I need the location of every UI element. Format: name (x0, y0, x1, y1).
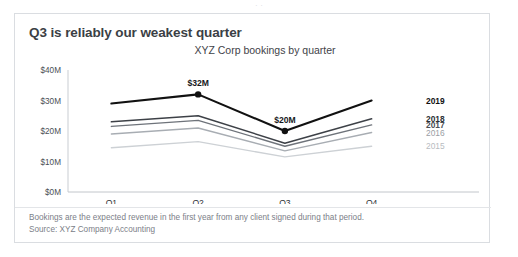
y-axis-tick-labels: $0M$10M$20M$30M$40M (41, 66, 62, 197)
y-tick-label: $30M (41, 97, 62, 106)
y-tick-label: $10M (41, 158, 62, 167)
cut-off-top-text: · · (0, 0, 518, 12)
footnote-line-1: Bookings are the expected revenue in the… (29, 212, 477, 224)
line-chart-svg: $0M$10M$20M$30M$40M $32M$20M 20192018201… (15, 58, 491, 204)
x-tick-label: Q2 (192, 198, 204, 204)
series-line-2017 (111, 120, 371, 146)
series-line-2019 (111, 94, 371, 131)
y-tick-label: $40M (41, 66, 62, 75)
x-axis-tick-labels: Q1Q2Q3Q4 (106, 198, 378, 204)
data-series-lines (111, 94, 371, 157)
footnote-line-2: Source: XYZ Company Accounting (29, 224, 477, 236)
series-label-2016: 2016 (426, 128, 445, 138)
x-tick-label: Q1 (106, 198, 118, 204)
chart-card: Q3 is reliably our weakest quarter XYZ C… (14, 13, 490, 243)
chart-plot-area: $0M$10M$20M$30M$40M $32M$20M 20192018201… (15, 58, 491, 204)
series-line-2016 (111, 128, 371, 151)
y-tick-label: $0M (45, 188, 61, 197)
series-label-2019: 2019 (426, 96, 445, 106)
series-legend-labels: 20192018201720162015 (426, 96, 445, 152)
series-line-2015 (111, 142, 371, 157)
chart-axes (68, 70, 479, 192)
x-tick-label: Q4 (366, 198, 378, 204)
screenshot-root: · · Q3 is reliably our weakest quarter X… (0, 0, 518, 257)
marker-2019-Q2 (195, 91, 201, 97)
x-tick-label: Q3 (279, 198, 291, 204)
footnote-divider (15, 207, 491, 208)
chart-subtitle: XYZ Corp bookings by quarter (15, 44, 491, 56)
footnote: Bookings are the expected revenue in the… (29, 212, 477, 235)
marker-2019-Q3 (282, 128, 288, 134)
y-tick-label: $20M (41, 127, 62, 136)
page-title: Q3 is reliably our weakest quarter (29, 25, 242, 40)
series-label-2015: 2015 (426, 141, 445, 151)
annotation-$32M: $32M (187, 78, 209, 88)
annotation-$20M: $20M (274, 115, 296, 125)
